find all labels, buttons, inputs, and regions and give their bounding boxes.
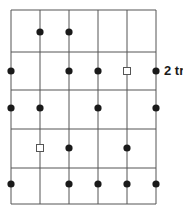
square-marker — [37, 145, 44, 152]
dot-marker — [152, 104, 159, 111]
grid-diagram — [0, 0, 183, 212]
dot-marker — [36, 104, 43, 111]
dot-marker — [65, 28, 72, 35]
dot-marker — [152, 67, 159, 74]
square-marker — [124, 68, 131, 75]
dot-marker — [7, 180, 14, 187]
dot-marker — [65, 180, 72, 187]
dot-marker — [94, 180, 101, 187]
dot-marker — [152, 180, 159, 187]
row-label: 2 tr — [164, 63, 183, 78]
dot-marker — [7, 67, 14, 74]
dot-marker — [123, 144, 130, 151]
dot-marker — [65, 144, 72, 151]
dot-marker — [94, 67, 101, 74]
dot-marker — [94, 104, 101, 111]
dot-marker — [7, 104, 14, 111]
dot-marker — [65, 67, 72, 74]
grid-lines — [11, 10, 156, 204]
dot-marker — [123, 180, 130, 187]
dot-marker — [36, 28, 43, 35]
